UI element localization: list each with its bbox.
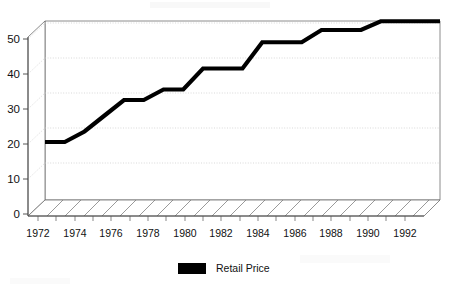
x-tick-label-1990: 1990 bbox=[356, 227, 380, 239]
plot-back-wall bbox=[45, 21, 440, 200]
x-tick-label-1992: 1992 bbox=[393, 227, 417, 239]
y-tick-label-10: 10 bbox=[7, 173, 20, 185]
x-tick-label-1976: 1976 bbox=[99, 227, 123, 239]
x-axis-minor-ticks bbox=[38, 216, 405, 221]
plot-floor bbox=[28, 200, 440, 216]
legend-swatch-retail-price bbox=[178, 263, 206, 274]
x-tick-label-1978: 1978 bbox=[136, 227, 160, 239]
y-tick-label-50: 50 bbox=[7, 33, 20, 45]
legend-label-retail-price: Retail Price bbox=[216, 262, 270, 274]
plot-left-wall bbox=[28, 21, 45, 216]
chart-legend: Retail Price bbox=[178, 262, 270, 274]
x-tick-label-1972: 1972 bbox=[26, 227, 50, 239]
y-tick-label-0: 0 bbox=[14, 208, 20, 220]
y-tick-label-20: 20 bbox=[7, 138, 20, 150]
x-tick-label-1984: 1984 bbox=[246, 227, 270, 239]
x-tick-label-1986: 1986 bbox=[283, 227, 307, 239]
x-tick-label-1982: 1982 bbox=[209, 227, 233, 239]
y-axis-ticks bbox=[23, 39, 28, 214]
chart-figure: 50 40 30 20 10 0 bbox=[0, 0, 462, 289]
x-tick-label-1988: 1988 bbox=[319, 227, 343, 239]
retail-price-line-chart: 50 40 30 20 10 0 bbox=[0, 0, 462, 289]
x-tick-label-1980: 1980 bbox=[173, 227, 197, 239]
y-tick-label-40: 40 bbox=[7, 68, 20, 80]
y-tick-label-30: 30 bbox=[7, 103, 20, 115]
x-tick-label-1974: 1974 bbox=[63, 227, 87, 239]
